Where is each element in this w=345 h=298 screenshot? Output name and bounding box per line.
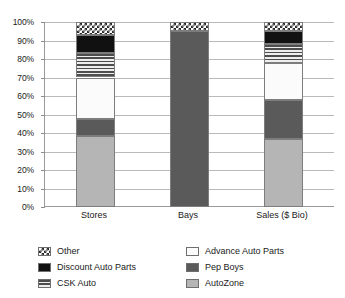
white-swatch: [186, 247, 199, 256]
x-axis-label: Sales ($ Bio): [256, 210, 308, 220]
bar-segment-other[interactable]: [76, 22, 115, 35]
checkerboard-swatch: [38, 247, 51, 256]
bar-segment-csk[interactable]: [76, 53, 115, 77]
legend-item[interactable]: Advance Auto Parts: [186, 243, 334, 259]
stacked-bar-chart: 0%10%20%30%40%50%60%70%80%90%100% Stores…: [0, 0, 345, 298]
bar-segment-discount[interactable]: [264, 31, 303, 44]
y-axis-tick: [41, 152, 45, 153]
bar-segment-pepboys[interactable]: [76, 119, 115, 136]
legend-item-label: Other: [57, 246, 80, 256]
y-axis-tick-label: 0%: [22, 202, 34, 212]
y-axis-tick-label: 90%: [17, 36, 34, 46]
bar-segment-other[interactable]: [170, 22, 209, 31]
y-axis-tick-label: 50%: [17, 110, 34, 120]
bar-segment-autozone[interactable]: [264, 139, 303, 207]
bar-segment-advance[interactable]: [76, 78, 115, 120]
x-axis-label: Bays: [178, 210, 198, 220]
y-axis-tick: [41, 170, 45, 171]
legend-item-label: CSK Auto: [57, 278, 96, 288]
y-axis-tick: [41, 41, 45, 42]
y-axis-tick-label: 40%: [17, 128, 34, 138]
dark-gray-swatch: [186, 263, 199, 272]
bar-segment-pepboys[interactable]: [264, 100, 303, 139]
light-gray-swatch: [186, 279, 199, 288]
y-axis-tick: [41, 115, 45, 116]
bar-bays[interactable]: [170, 22, 209, 206]
bar-sales-bio[interactable]: [264, 22, 303, 206]
y-axis-tick-label: 30%: [17, 147, 34, 157]
y-axis-tick-label: 100%: [13, 17, 34, 27]
bar-segment-other[interactable]: [264, 22, 303, 31]
striped-swatch: [38, 279, 51, 288]
y-axis-tick-label: 70%: [17, 73, 34, 83]
bar-segment-pepboys[interactable]: [170, 31, 209, 207]
x-axis: StoresBaysSales ($ Bio): [44, 210, 334, 230]
y-axis-tick-label: 60%: [17, 91, 34, 101]
legend-item[interactable]: CSK Auto: [38, 275, 186, 291]
plot-area: [44, 22, 334, 207]
bar-segment-discount[interactable]: [76, 35, 115, 54]
legend-item-label: Advance Auto Parts: [205, 246, 284, 256]
y-axis-tick: [41, 78, 45, 79]
plot-wrapper: 0%10%20%30%40%50%60%70%80%90%100% Stores…: [0, 0, 345, 230]
y-axis-tick: [41, 133, 45, 134]
legend-item[interactable]: Pep Boys: [186, 259, 334, 275]
legend-item-label: Discount Auto Parts: [57, 262, 136, 272]
y-axis-tick-label: 80%: [17, 54, 34, 64]
bar-segment-advance[interactable]: [264, 63, 303, 100]
legend-item-label: Pep Boys: [205, 262, 244, 272]
y-axis-tick: [41, 22, 45, 23]
legend-item[interactable]: Discount Auto Parts: [38, 259, 186, 275]
legend-item[interactable]: Other: [38, 243, 186, 259]
y-axis-tick-label: 10%: [17, 184, 34, 194]
y-axis-tick: [41, 189, 45, 190]
legend-item-label: AutoZone: [205, 278, 244, 288]
chart-legend: OtherAdvance Auto PartsDiscount Auto Par…: [38, 243, 328, 293]
y-axis-tick: [41, 96, 45, 97]
y-axis-tick: [41, 59, 45, 60]
bar-segment-autozone[interactable]: [76, 136, 115, 207]
bar-segment-csk[interactable]: [264, 44, 303, 63]
black-swatch: [38, 263, 51, 272]
x-axis-label: Stores: [81, 210, 107, 220]
y-axis-tick: [41, 207, 45, 208]
legend-item[interactable]: AutoZone: [186, 275, 334, 291]
y-axis-tick-label: 20%: [17, 165, 34, 175]
bar-stores[interactable]: [76, 22, 115, 206]
y-axis: 0%10%20%30%40%50%60%70%80%90%100%: [0, 16, 38, 214]
